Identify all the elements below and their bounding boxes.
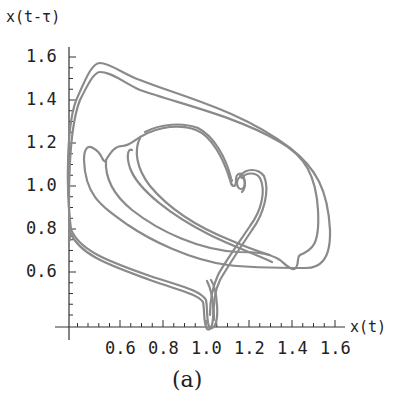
y-tick-label: 1.4: [26, 89, 57, 109]
y-tick-label: 0.8: [26, 218, 57, 238]
x-tick-label: 0.6: [105, 338, 136, 358]
x-axis-title: x(t): [350, 318, 386, 336]
y-tick-label: 1.2: [26, 132, 57, 152]
x-tick-label: 1.6: [320, 338, 351, 358]
y-axis-title: x(t-τ): [6, 8, 60, 26]
x-tick-label: 1.0: [191, 338, 222, 358]
figure-caption: (a): [172, 367, 202, 392]
y-tick-label: 1.0: [26, 175, 57, 195]
trajectory-curve: [68, 63, 330, 329]
x-tick-label: 1.4: [277, 338, 308, 358]
x-tick-label: 1.2: [234, 338, 265, 358]
x-tick-label: 0.8: [148, 338, 179, 358]
y-tick-label: 0.6: [26, 261, 57, 281]
y-tick-label: 1.6: [26, 46, 57, 66]
